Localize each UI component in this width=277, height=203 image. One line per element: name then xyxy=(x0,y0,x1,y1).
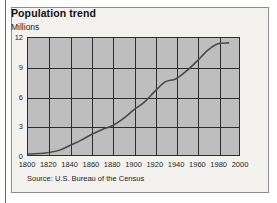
x-axis-tick-label: 1840 xyxy=(61,160,78,169)
y-axis-tick-label: 12 xyxy=(15,33,23,42)
x-axis-tick-label: 1800 xyxy=(19,160,36,169)
page-divider-rule xyxy=(5,0,6,203)
x-axis-tick-label: 1880 xyxy=(104,160,121,169)
x-axis-tick-label: 1980 xyxy=(210,160,227,169)
x-axis-tick-label: 1820 xyxy=(40,160,57,169)
chart-title: Population trend xyxy=(11,7,96,19)
y-axis-tick-label: 6 xyxy=(19,92,23,101)
x-axis-tick-label: 1860 xyxy=(83,160,100,169)
population-line-series xyxy=(28,38,239,155)
x-axis-tick-label: 1920 xyxy=(146,160,163,169)
y-axis-tick-label: 9 xyxy=(19,62,23,71)
x-axis-tick-label: 1960 xyxy=(189,160,206,169)
plot-area xyxy=(27,37,240,156)
y-axis-title: Millions xyxy=(11,22,39,32)
x-axis-tick-label: 1900 xyxy=(125,160,142,169)
x-axis-tick-label: 1940 xyxy=(168,160,185,169)
y-axis-tick-label: 3 xyxy=(19,122,23,131)
x-axis-tick-label: 2000 xyxy=(232,160,249,169)
source-note: Source: U.S. Bureau of the Census xyxy=(27,174,144,183)
population-line-path xyxy=(28,43,228,154)
plot-wrapper: 036912 180018201840186018801900192019401… xyxy=(27,37,240,156)
